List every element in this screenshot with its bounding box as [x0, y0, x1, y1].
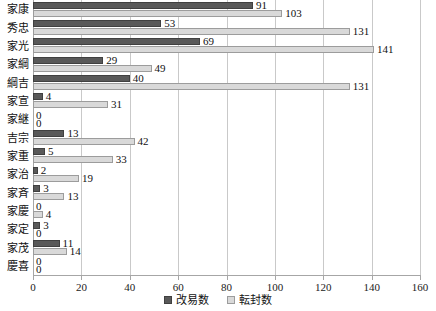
bar: [33, 130, 64, 137]
x-tick-mark: [227, 275, 228, 280]
x-tick-mark: [420, 275, 421, 280]
gridline: [420, 0, 421, 275]
category-label: 家宣: [7, 95, 29, 107]
category-label: 慶喜: [7, 260, 29, 272]
x-tick-mark: [130, 275, 131, 280]
category-label: 家定: [7, 223, 29, 235]
category-label: 家継: [7, 113, 29, 125]
x-tick-label: 100: [267, 281, 284, 293]
gridline: [275, 0, 276, 275]
bar-chart: 家康秀忠家光家綱綱吉家宣家継吉宗家重家治家斉家慶家定家茂慶喜 911035313…: [0, 0, 436, 311]
category-label: 家康: [7, 3, 29, 15]
bar-value-label: 31: [111, 99, 122, 110]
bar-value-label: 3: [43, 220, 49, 231]
bar-value-label: 0: [36, 118, 42, 129]
bar: [33, 28, 350, 35]
chart-legend: 改易数転封数: [0, 294, 436, 306]
bar: [33, 46, 374, 53]
bar-value-label: 141: [377, 44, 394, 55]
x-tick-mark: [81, 275, 82, 280]
legend-swatch-icon: [227, 296, 235, 304]
category-label: 吉宗: [7, 132, 29, 144]
bar: [33, 101, 108, 108]
bar: [33, 57, 103, 64]
bar-value-label: 14: [70, 246, 81, 257]
category-label: 家光: [7, 40, 29, 52]
category-label: 家重: [7, 150, 29, 162]
bar: [33, 193, 64, 200]
bar-value-label: 33: [116, 154, 127, 165]
x-tick-label: 0: [30, 281, 36, 293]
bar: [33, 248, 67, 255]
x-tick-label: 40: [124, 281, 135, 293]
x-tick-label: 20: [76, 281, 87, 293]
bar: [33, 167, 38, 174]
bar: [33, 211, 43, 218]
bar: [33, 240, 60, 247]
bar: [33, 93, 43, 100]
bar: [33, 83, 350, 90]
x-tick-label: 120: [315, 281, 332, 293]
bar-value-label: 131: [353, 26, 370, 37]
gridline: [227, 0, 228, 275]
legend-item[interactable]: 転封数: [227, 294, 272, 306]
plot-area: 9110353131691412949401314310013425332193…: [33, 0, 420, 275]
x-tick-label: 140: [363, 281, 380, 293]
x-tick-mark: [323, 275, 324, 280]
bar-value-label: 103: [285, 8, 302, 19]
bar: [33, 10, 282, 17]
bar-value-label: 0: [36, 228, 42, 239]
legend-swatch-icon: [164, 296, 172, 304]
bar-value-label: 131: [353, 81, 370, 92]
gridline: [372, 0, 373, 275]
category-label: 家茂: [7, 242, 29, 254]
x-tick-mark: [33, 275, 34, 280]
bar-value-label: 42: [138, 136, 149, 147]
x-tick-label: 160: [412, 281, 429, 293]
bar: [33, 148, 45, 155]
bar: [33, 175, 79, 182]
bar: [33, 156, 113, 163]
category-label: 綱吉: [7, 77, 29, 89]
category-label: 家慶: [7, 205, 29, 217]
legend-item[interactable]: 改易数: [164, 294, 209, 306]
bar: [33, 65, 152, 72]
category-label: 家斉: [7, 187, 29, 199]
x-tick-mark: [178, 275, 179, 280]
bar: [33, 138, 135, 145]
bar: [33, 2, 253, 9]
x-tick-label: 60: [173, 281, 184, 293]
bar-value-label: 19: [82, 173, 93, 184]
category-label: 秀忠: [7, 22, 29, 34]
bar: [33, 38, 200, 45]
gridline: [323, 0, 324, 275]
bar-value-label: 0: [36, 264, 42, 275]
category-axis: 家康秀忠家光家綱綱吉家宣家継吉宗家重家治家斉家慶家定家茂慶喜: [0, 0, 31, 275]
bar-value-label: 49: [155, 63, 166, 74]
bar-value-label: 13: [67, 191, 78, 202]
category-label: 家治: [7, 168, 29, 180]
bar: [33, 20, 161, 27]
x-tick-mark: [275, 275, 276, 280]
x-tick-mark: [372, 275, 373, 280]
bar: [33, 185, 40, 192]
legend-label: 転封数: [239, 294, 272, 306]
x-tick-label: 80: [221, 281, 232, 293]
legend-label: 改易数: [176, 294, 209, 306]
bar: [33, 75, 130, 82]
category-label: 家綱: [7, 58, 29, 70]
